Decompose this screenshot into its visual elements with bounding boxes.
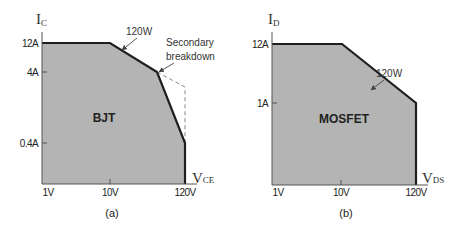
bjt-120w-label: 120W bbox=[126, 26, 153, 37]
mosfet-y-axis-name: ID bbox=[268, 11, 280, 28]
bjt-caption: (a) bbox=[105, 207, 118, 219]
mosfet-xtick-1v: 1V bbox=[272, 187, 284, 198]
mosfet-xtick-10v: 10V bbox=[333, 187, 350, 198]
mosfet-caption: (b) bbox=[339, 207, 352, 219]
bjt-ytick-12a: 12A bbox=[22, 38, 39, 49]
bjt-region-label: BJT bbox=[93, 111, 116, 125]
mosfet-ytick-1a: 1A bbox=[257, 98, 269, 109]
bjt-panel: IC VCE 12A 4A 0.4A 1V 10V 120V 120W Seco… bbox=[20, 11, 215, 219]
bjt-xtick-1v: 1V bbox=[42, 187, 54, 198]
bjt-secondary-label-1: Secondary bbox=[166, 37, 214, 48]
mosfet-120w-label: 120W bbox=[376, 68, 403, 79]
bjt-secondary-label-2: breakdown bbox=[166, 51, 215, 62]
mosfet-panel: ID VDS 12A 1A 1V 10V 120V 120W MOSFET (b… bbox=[252, 11, 444, 219]
bjt-xtick-120v: 120V bbox=[175, 187, 197, 198]
bjt-secondary-arrow bbox=[159, 63, 174, 72]
bjt-y-axis-name: IC bbox=[36, 11, 47, 28]
bjt-ytick-4a: 4A bbox=[27, 67, 39, 78]
bjt-ytick-0.4a: 0.4A bbox=[20, 138, 39, 149]
mosfet-ytick-12a: 12A bbox=[252, 39, 269, 50]
soa-diagram: IC VCE 12A 4A 0.4A 1V 10V 120V 120W Seco… bbox=[0, 0, 459, 235]
bjt-x-axis-name: VCE bbox=[192, 170, 215, 186]
mosfet-region-label: MOSFET bbox=[319, 112, 370, 126]
mosfet-x-axis-name: VDS bbox=[422, 170, 444, 186]
bjt-xtick-10v: 10V bbox=[102, 187, 119, 198]
bjt-120w-arrow bbox=[122, 38, 137, 50]
mosfet-xtick-120v: 120V bbox=[406, 187, 428, 198]
